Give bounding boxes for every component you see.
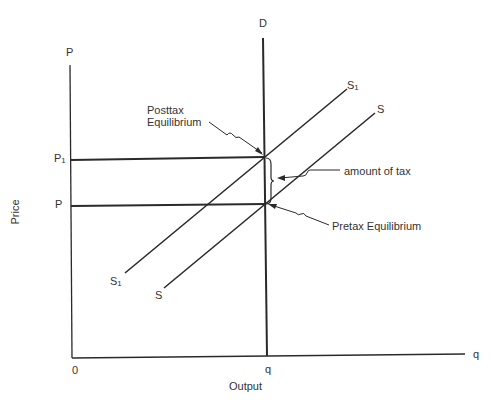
x-axis-title: Output: [229, 381, 262, 392]
s1-top-label: S1: [347, 80, 359, 92]
s1-top-sub: 1: [354, 83, 358, 92]
y-axis-title: Price: [9, 194, 21, 230]
demand-label: D: [259, 18, 267, 29]
s-top-label: S: [377, 104, 384, 115]
p1-price-line: [71, 157, 264, 160]
origin-label: 0: [72, 365, 78, 376]
tax-incidence-diagram: [0, 0, 491, 402]
s1-bottom-label: S1: [110, 276, 122, 288]
x-axis-end-label: q: [473, 349, 479, 360]
tax-arrowhead: [277, 175, 285, 181]
pretax-arrowhead: [268, 204, 277, 209]
posttax-line1: Posttax: [147, 104, 201, 116]
demand-curve: [263, 38, 267, 356]
posttax-leader: [209, 122, 262, 153]
p1-label: P1: [54, 153, 66, 165]
p-label-main: P: [55, 198, 62, 210]
p-label: P: [55, 199, 62, 210]
x-axis: [72, 354, 465, 358]
posttax-line2: Equilibrium: [147, 116, 201, 128]
tax-leader: [280, 170, 340, 178]
p1-label-sub: 1: [61, 156, 65, 165]
pretax-equilibrium-label: Pretax Equilibrium: [332, 220, 421, 232]
supply-curve-s: [164, 113, 375, 288]
s1-bottom-sub: 1: [117, 279, 121, 288]
amount-of-tax-label: amount of tax: [344, 165, 411, 177]
y-axis-top-label: P: [66, 47, 73, 58]
p-price-line: [71, 204, 266, 206]
posttax-arrowhead: [255, 147, 263, 155]
quantity-tick-label: q: [265, 364, 271, 375]
posttax-equilibrium-label: Posttax Equilibrium: [147, 104, 201, 128]
s-bottom-label: S: [155, 290, 162, 301]
pretax-leader: [271, 205, 329, 225]
y-axis: [70, 65, 72, 358]
